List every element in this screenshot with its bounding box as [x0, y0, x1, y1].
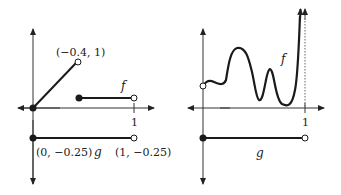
open-dot-top — [75, 59, 81, 65]
g-filled-dot — [30, 135, 37, 142]
f-open-dot-start — [200, 83, 206, 89]
g-open-dot — [131, 135, 137, 141]
f-filled-dot — [76, 95, 83, 102]
right-tick-label: 1 — [302, 116, 309, 129]
left-f-label: f — [120, 79, 128, 93]
right-f-label: f — [280, 52, 288, 66]
f-curve-arrow — [300, 9, 301, 20]
right-g-filled-dot — [200, 135, 207, 142]
left-g-label: g — [94, 145, 102, 159]
origin-filled-dot — [30, 105, 37, 112]
g-start-label: (0, −0.25) — [36, 146, 92, 159]
right-g-open-dot — [302, 135, 308, 141]
right-graph: 1 f g — [188, 9, 324, 184]
diagram-canvas: 1 (−0.4, 1) f (0, −0.25) g (1, −0.25) 1 — [0, 0, 341, 195]
left-tick-label: 1 — [131, 116, 138, 129]
point-label-top: (−0.4, 1) — [56, 46, 105, 59]
left-f-diagonal — [33, 63, 76, 108]
f-open-dot — [131, 95, 137, 101]
left-graph: 1 (−0.4, 1) f (0, −0.25) g (1, −0.25) — [18, 29, 171, 184]
right-g-label: g — [256, 146, 264, 160]
g-end-label: (1, −0.25) — [115, 146, 171, 159]
